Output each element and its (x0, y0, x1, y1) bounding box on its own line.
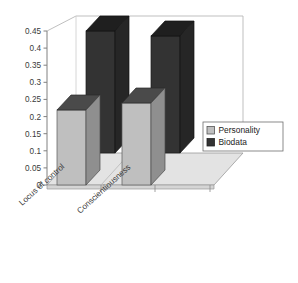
bar-side-face (180, 21, 194, 153)
legend-swatch-biodata (207, 139, 215, 147)
bar-side-face (151, 88, 165, 185)
y-tick-label: 0.15 (25, 130, 41, 139)
chart-legend: Personality Biodata (203, 122, 283, 151)
legend-swatch-personality (207, 127, 215, 135)
bar-front-face (57, 110, 86, 185)
legend-label-biodata: Biodata (219, 137, 248, 147)
y-tick-label: 0.3 (30, 78, 42, 87)
y-tick-label: 0.4 (30, 44, 42, 53)
chart-canvas: 0.45 0.4 0.35 0.3 0.25 0.2 0.15 0.1 0.05… (0, 0, 298, 283)
y-tick-label: 0.2 (30, 113, 42, 122)
bar-personality-locus-of-control (57, 95, 100, 185)
legend-label-personality: Personality (219, 125, 261, 135)
y-tick-label: 0.05 (25, 164, 41, 173)
y-tick-label: 0.1 (30, 147, 42, 156)
y-tick-label: 0.45 (25, 27, 41, 36)
bar-side-face (86, 95, 100, 185)
y-tick-label: 0.25 (25, 95, 41, 104)
chart-3d-bar: 0.45 0.4 0.35 0.3 0.25 0.2 0.15 0.1 0.05… (0, 0, 298, 283)
y-tick-label: 0.35 (25, 61, 41, 70)
floor-thickness (47, 185, 214, 189)
